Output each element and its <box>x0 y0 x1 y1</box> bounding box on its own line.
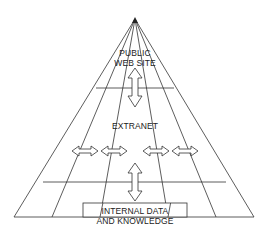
horizontal-double-arrow-icon <box>72 146 98 156</box>
public-label-line2: WEB SITE <box>100 58 170 68</box>
public-web-site-label: PUBLIC WEB SITE <box>100 48 170 68</box>
internal-data-label: INTERNAL DATA AND KNOWLEDGE <box>85 206 185 226</box>
internal-label-line1: INTERNAL DATA <box>85 206 185 216</box>
internal-label-line2: AND KNOWLEDGE <box>85 216 185 226</box>
horizontal-double-arrow-icon <box>101 146 127 156</box>
horizontal-double-arrow-icon <box>143 146 169 156</box>
vertical-double-arrow-icon <box>128 68 142 107</box>
apex-marker <box>132 17 138 23</box>
horizontal-double-arrow-icon <box>172 146 198 156</box>
horizontal-arrows <box>72 146 198 156</box>
extranet-label: EXTRANET <box>100 121 170 131</box>
public-label-line1: PUBLIC <box>100 48 170 58</box>
